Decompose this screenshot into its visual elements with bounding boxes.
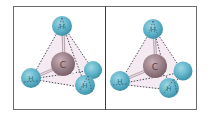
hydrogen-label-left: H	[28, 75, 33, 83]
carbon-label: C	[60, 60, 66, 70]
hydrogen-label-top: H	[150, 26, 155, 34]
hydrogen-label-front: H	[166, 85, 171, 93]
hydrogen-label-front: H	[82, 82, 87, 90]
panel-right: C H H H H	[110, 19, 193, 98]
panel-left: C H H H H	[21, 16, 102, 95]
carbon-label: C	[152, 62, 158, 72]
methane-figure: C H H H H	[0, 0, 210, 115]
hydrogen-label-top: H	[59, 23, 64, 31]
hydrogen-label-left: H	[117, 78, 122, 86]
